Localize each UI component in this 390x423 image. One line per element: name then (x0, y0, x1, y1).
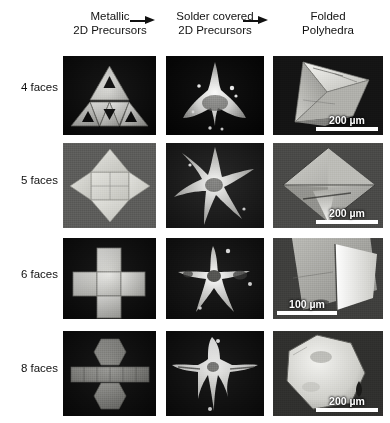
row-label-5-faces: 5 faces (0, 174, 58, 186)
solder-cross-shape (166, 238, 264, 319)
column-header-solder-line2: 2D Precursors (164, 23, 266, 37)
solder-triangular-shape (166, 56, 264, 135)
micrograph-row-4-faces-folded: 200 µm (273, 56, 383, 135)
column-headers: Metallic 2D Precursors Solder covered 2D… (0, 4, 390, 48)
row-label-4-faces: 4 faces (0, 81, 58, 93)
right-arrow-icon-1 (130, 16, 156, 25)
solder-star-shape (166, 143, 264, 228)
right-arrow-icon-2 (243, 16, 269, 25)
solder-prism-net-shape (166, 331, 264, 416)
row-label-6-faces: 6 faces (0, 268, 58, 280)
scale-bar-row-6-faces: 100 µm (277, 298, 337, 315)
figure-panel: Metallic 2D Precursors Solder covered 2D… (0, 0, 390, 423)
hexagonal-prism-net-shape (63, 331, 156, 416)
micrograph-row-5-faces-metallic (63, 143, 156, 228)
scale-bar-line (316, 127, 378, 131)
micrograph-row-5-faces-solder (166, 143, 264, 228)
micrograph-row-8-faces-metallic (63, 331, 156, 416)
micrograph-row-6-faces-solder (166, 238, 264, 319)
arrow-head (145, 16, 155, 24)
arrow-head (258, 16, 268, 24)
scale-bar-line (316, 220, 378, 224)
square-pyramid-net-shape (63, 143, 156, 228)
scale-bar-row-5-faces: 200 µm (316, 207, 378, 224)
scale-bar-row-4-faces: 200 µm (316, 114, 378, 131)
micrograph-row-6-faces-metallic (63, 238, 156, 319)
micrograph-row-8-faces-folded: 200 µm (273, 331, 383, 416)
row-label-8-faces: 8 faces (0, 362, 58, 374)
scale-bar-label: 200 µm (316, 114, 378, 126)
scale-bar-label: 200 µm (316, 207, 378, 219)
micrograph-row-6-faces-folded: 100 µm (273, 238, 383, 319)
column-header-folded: Folded Polyhedra (272, 9, 384, 37)
scale-bar-label: 200 µm (316, 395, 378, 407)
cube-net-shape (63, 238, 156, 319)
column-header-folded-line1: Folded (272, 9, 384, 23)
column-header-metallic-line2: 2D Precursors (62, 23, 158, 37)
micrograph-row-4-faces-metallic (63, 56, 156, 135)
scale-bar-row-8-faces: 200 µm (316, 395, 378, 412)
scale-bar-line (316, 408, 378, 412)
micrograph-row-4-faces-solder (166, 56, 264, 135)
micrograph-row-5-faces-folded: 200 µm (273, 143, 383, 228)
micrograph-row-8-faces-solder (166, 331, 264, 416)
column-header-folded-line2: Polyhedra (272, 23, 384, 37)
scale-bar-label: 100 µm (277, 298, 337, 310)
scale-bar-line (277, 311, 337, 315)
triangular-net-shape (63, 56, 156, 135)
